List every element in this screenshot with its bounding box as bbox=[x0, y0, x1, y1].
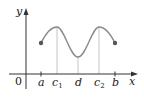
endpoint-b bbox=[113, 41, 117, 45]
y-axis-arrow-icon bbox=[24, 8, 29, 15]
x-axis-label: x bbox=[129, 75, 136, 88]
function-graph: y 0 x a c1 d c2 b bbox=[0, 0, 144, 97]
tick-label-c2: c2 bbox=[94, 76, 105, 90]
tick-label-b: b bbox=[112, 76, 119, 89]
tick-label-a: a bbox=[38, 76, 45, 89]
function-curve bbox=[41, 27, 115, 57]
origin-label: 0 bbox=[15, 75, 22, 88]
tick-label-d: d bbox=[75, 76, 82, 89]
y-axis-label: y bbox=[15, 5, 23, 18]
tick-label-c1: c1 bbox=[52, 76, 63, 90]
endpoint-a bbox=[39, 41, 43, 45]
